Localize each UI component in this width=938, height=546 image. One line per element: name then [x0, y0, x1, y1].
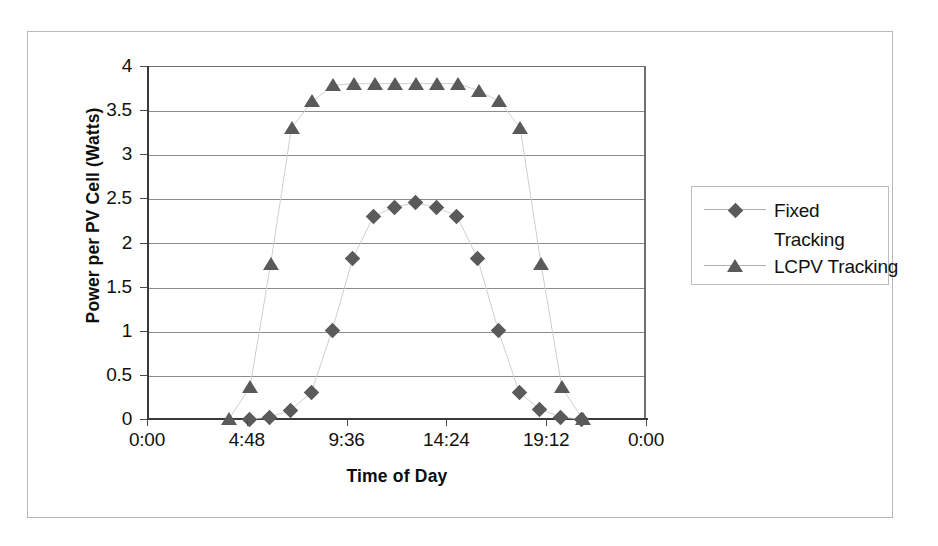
legend-entry-fixed-tracking[interactable]: Fixed Tracking: [692, 195, 888, 225]
x-tick-label: 0:00: [601, 430, 691, 449]
y-tick-mark: [140, 154, 147, 155]
x-tick-mark: [646, 420, 647, 426]
series-line-lcpv-tracking: [229, 84, 582, 419]
x-tick-mark: [446, 420, 447, 426]
y-tick-label: 1.5: [88, 277, 132, 296]
legend-marker-diamond-icon: [704, 195, 766, 225]
x-tick-label: 19:12: [501, 430, 591, 449]
x-tick-label: 14:24: [401, 430, 491, 449]
legend: Fixed Tracking LCPV Tracking: [691, 186, 889, 285]
chart: Power per PV Cell (Watts) 00.511.522.533…: [0, 0, 938, 546]
legend-label-line2: Tracking: [774, 229, 845, 250]
y-tick-label: 2: [88, 233, 132, 252]
series-line-fixed-tracking: [250, 203, 582, 419]
y-tick-label: 0.5: [88, 365, 132, 384]
x-tick-mark: [347, 420, 348, 426]
y-tick-label: 3.5: [88, 100, 132, 119]
x-tick-mark: [546, 420, 547, 426]
legend-entry-lcpv-tracking[interactable]: LCPV Tracking: [692, 251, 888, 281]
y-tick-label: 1: [88, 321, 132, 340]
x-tick-label: 9:36: [302, 430, 392, 449]
y-tick-mark: [140, 331, 147, 332]
x-axis-title: Time of Day: [147, 466, 647, 487]
y-tick-mark: [140, 419, 147, 420]
legend-label-line1: Fixed: [774, 200, 819, 221]
y-tick-mark: [140, 198, 147, 199]
x-tick-mark: [247, 420, 248, 426]
x-tick-label: 0:00: [102, 430, 192, 449]
y-tick-label: 0: [88, 409, 132, 428]
y-tick-label: 3: [88, 144, 132, 163]
y-tick-mark: [140, 243, 147, 244]
y-tick-mark: [140, 287, 147, 288]
y-tick-mark: [140, 66, 147, 67]
y-tick-mark: [140, 375, 147, 376]
x-tick-mark: [147, 420, 148, 426]
legend-label-line1: LCPV Tracking: [774, 256, 898, 277]
y-tick-label: 4: [88, 56, 132, 75]
legend-marker-triangle-icon: [704, 251, 766, 281]
y-tick-label: 2.5: [88, 188, 132, 207]
y-tick-mark: [140, 110, 147, 111]
x-tick-label: 4:48: [202, 430, 292, 449]
